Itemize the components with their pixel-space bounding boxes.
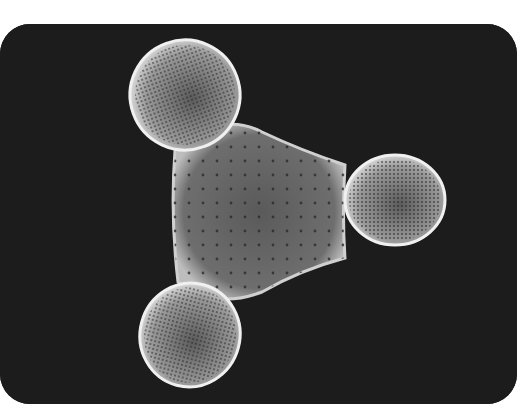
diatom-illustration	[0, 24, 517, 404]
diatom-lobe-right	[345, 155, 445, 245]
micrograph-panel: Triradiate diatom (SEM micrograph)	[0, 24, 517, 404]
